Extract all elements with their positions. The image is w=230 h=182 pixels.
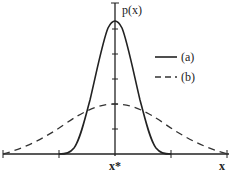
legend-label-a: (a) (181, 51, 194, 63)
center-label: x* (109, 160, 121, 172)
legend-label-b: (b) (181, 71, 195, 83)
y-axis-label: p(x) (122, 4, 142, 16)
x-axis-label: x (219, 160, 225, 172)
density-plot (0, 0, 230, 182)
